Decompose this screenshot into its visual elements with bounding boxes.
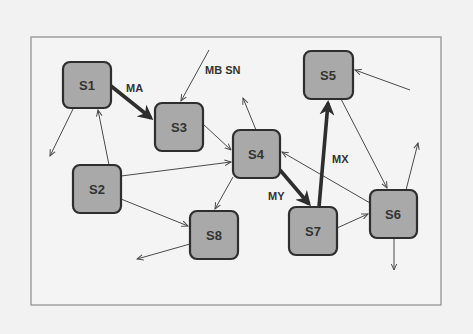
node-s2: S2: [73, 165, 121, 213]
node-label: S8: [206, 228, 222, 243]
node-label: S4: [248, 147, 265, 162]
node-s1: S1: [63, 62, 111, 108]
node-label: S7: [305, 224, 321, 239]
node-s7: S7: [289, 207, 337, 255]
node-s8: S8: [190, 211, 238, 259]
node-label: S1: [79, 78, 95, 93]
node-s3: S3: [155, 103, 203, 151]
edge-label-my: MY: [268, 190, 285, 202]
edge-label-mx: MX: [332, 153, 349, 165]
node-s5: S5: [304, 51, 353, 99]
state-graph: MA MB SN MY MX S1 S2 S3 S4 S5 S6 S7 S8: [0, 0, 473, 334]
node-label: S3: [171, 120, 187, 135]
edge-label-ma: MA: [126, 82, 143, 94]
node-s6: S6: [370, 190, 417, 238]
node-label: S5: [320, 68, 336, 83]
diagram-canvas: MA MB SN MY MX S1 S2 S3 S4 S5 S6 S7 S8: [0, 0, 473, 334]
node-label: S2: [89, 182, 105, 197]
edge-label-mb-sn: MB SN: [205, 64, 241, 76]
node-label: S6: [385, 207, 401, 222]
node-s4: S4: [233, 130, 280, 178]
